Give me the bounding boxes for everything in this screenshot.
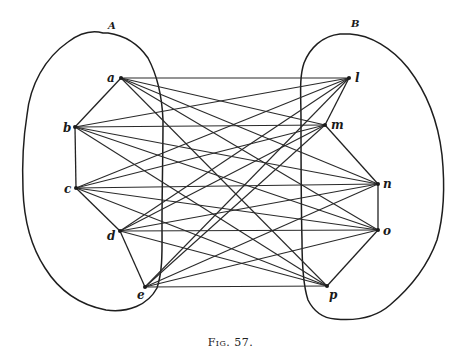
edge-a-m [121,78,325,125]
node-d [118,229,122,233]
node-n [376,182,380,186]
edge-c-l [76,78,349,188]
edge-e-p [145,286,327,287]
edge-o-p [327,230,378,286]
edge-d-p [120,231,327,286]
node-m [323,123,327,127]
node-label-d: d [107,229,116,243]
node-label-n: n [383,177,392,191]
node-label-l: l [355,71,360,85]
node-label-m: m [331,118,344,132]
region-b-label: B [350,18,359,29]
node-o [376,228,380,232]
region-a-label: A [107,20,116,31]
edge-c-o [76,188,378,230]
figure-caption: Fig. 57. [0,336,461,349]
node-l [347,76,351,80]
edge-d-e [120,231,145,287]
edge-d-o [120,230,378,231]
node-a [119,76,123,80]
node-label-e: e [137,288,145,302]
node-label-o: o [383,224,391,238]
edge-c-d [76,188,120,231]
node-label-a: a [107,71,115,85]
node-label-c: c [64,182,72,196]
node-label-b: b [63,121,71,135]
edge-e-o [145,230,378,287]
node-label-p: p [329,288,338,302]
edge-b-o [75,127,378,230]
node-c [74,186,78,190]
figure-57-diagram: abcdelmnop A B [0,0,461,360]
node-b [73,125,77,129]
edge-b-c [75,127,76,188]
edges-group [75,78,378,287]
